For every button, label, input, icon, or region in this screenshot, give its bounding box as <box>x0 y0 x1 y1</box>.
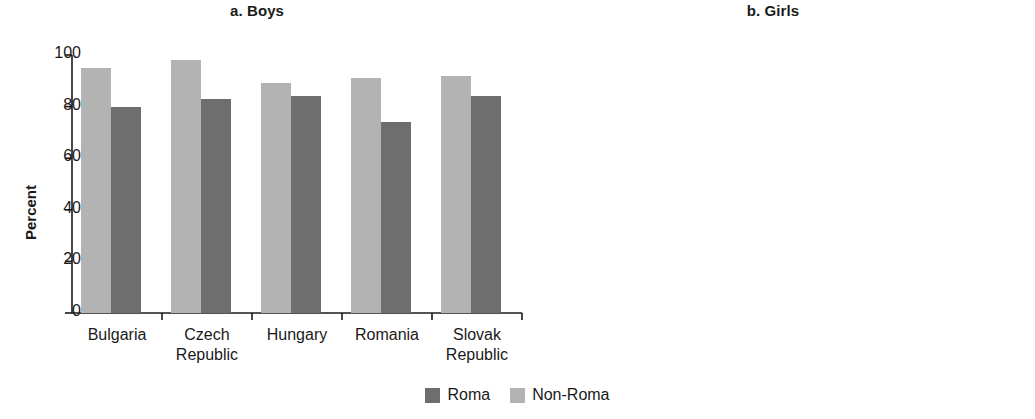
bar-non-roma <box>261 83 291 313</box>
bar-roma <box>381 122 411 313</box>
legend-swatch-icon <box>425 388 440 403</box>
axis-lines <box>520 0 1035 385</box>
figure: a. Boys Percent 020406080100BulgariaCzec… <box>0 0 1035 419</box>
y-tick-label: 60 <box>63 147 81 165</box>
bar-non-roma <box>171 60 201 313</box>
bar-roma <box>111 107 141 313</box>
bar-non-roma <box>351 78 381 313</box>
legend-entry: Roma <box>425 386 490 404</box>
y-tick-label: 20 <box>63 250 81 268</box>
chart-panel-girls: b. Girls Percent 020406080100BulgariaCze… <box>520 0 1035 385</box>
bar-non-roma <box>441 76 471 313</box>
bar-non-roma <box>81 68 111 313</box>
y-tick-label: 0 <box>72 302 81 320</box>
legend-label: Roma <box>447 386 490 404</box>
y-tick-label: 80 <box>63 96 81 114</box>
legend-label: Non-Roma <box>532 386 609 404</box>
chart-panels: a. Boys Percent 020406080100BulgariaCzec… <box>0 0 1035 385</box>
chart-legend: RomaNon-Roma <box>0 386 1035 404</box>
bar-roma <box>471 96 501 313</box>
legend-swatch-icon <box>510 388 525 403</box>
bar-roma <box>201 99 231 313</box>
bar-roma <box>291 96 321 313</box>
legend-entry: Non-Roma <box>510 386 609 404</box>
y-tick-label: 40 <box>63 199 81 217</box>
y-tick-label: 100 <box>54 44 81 62</box>
